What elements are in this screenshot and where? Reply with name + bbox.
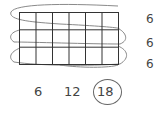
row-label-2: 6 [146,37,154,49]
skip-count-1: 6 [34,85,42,98]
row-label-1: 6 [146,13,154,25]
grid-lines [20,13,119,65]
skip-count-2: 12 [64,85,81,98]
row-label-3: 6 [146,58,154,70]
skip-count-3: 18 [97,85,114,98]
array-grid [0,0,163,113]
